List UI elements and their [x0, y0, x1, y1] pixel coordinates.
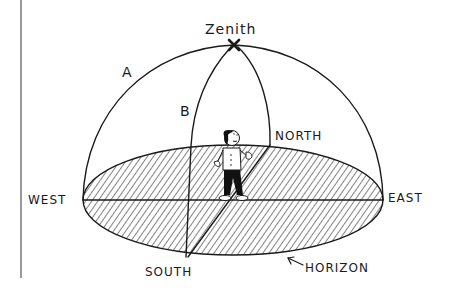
arc-a-label: A: [122, 64, 133, 80]
arc-b-label: B: [180, 103, 191, 119]
horizon-arrow-icon: [288, 257, 303, 265]
meridian-arc-north: [238, 47, 270, 145]
south-label: SOUTH: [145, 265, 192, 279]
north-label: NORTH: [275, 129, 322, 143]
horizon-label: HORIZON: [305, 261, 369, 275]
zenith-label: Zenith: [205, 21, 256, 37]
east-label: EAST: [388, 191, 423, 205]
celestial-sphere-diagram: Zenith A B NORTH WEST EAST SOUTH HORIZON: [0, 0, 456, 291]
west-label: WEST: [28, 193, 66, 207]
